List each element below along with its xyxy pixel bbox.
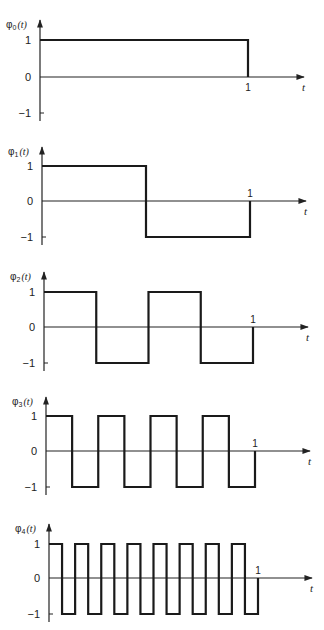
x-axis-label: t (306, 331, 310, 343)
y-axis-label: φ2(t) (10, 271, 31, 283)
y-tick-label-0: 0 (34, 572, 40, 584)
y-tick-label-0: 0 (29, 321, 35, 333)
waveform-phi-4 (49, 544, 258, 614)
x-tick-label-1: 1 (247, 188, 253, 199)
panel-phi-1: φ1(t)10−11t (8, 146, 308, 245)
y-tick-label-neg1: −1 (18, 107, 31, 119)
x-tick-label-1: 1 (252, 438, 258, 449)
walsh-functions-figure: φ0(t)10−11tφ1(t)10−11tφ2(t)10−11tφ3(t)10… (0, 0, 324, 630)
y-tick-label-0: 0 (27, 195, 33, 207)
y-tick-label-neg1: −1 (27, 608, 40, 620)
x-axis-label: t (308, 455, 312, 467)
y-tick-label-1: 1 (27, 160, 33, 172)
y-tick-label-neg1: −1 (24, 481, 37, 493)
y-tick-label-1: 1 (29, 286, 35, 298)
x-tick-label-1: 1 (255, 565, 261, 576)
waveform-phi-0 (40, 40, 248, 77)
panel-phi-3: φ3(t)10−11t (12, 396, 312, 495)
x-tick-label-1: 1 (245, 82, 251, 93)
y-tick-label-neg1: −1 (22, 357, 35, 369)
y-axis-label: φ1(t) (8, 146, 29, 158)
y-tick-label-0: 0 (25, 71, 31, 83)
x-axis-label: t (304, 205, 308, 217)
panel-phi-4: φ4(t)10−11t (15, 523, 314, 622)
y-tick-label-1: 1 (25, 34, 31, 46)
y-tick-label-0: 0 (31, 445, 37, 457)
x-axis-label: t (302, 81, 306, 93)
y-tick-label-neg1: −1 (20, 231, 33, 243)
y-tick-label-1: 1 (34, 538, 40, 550)
y-axis-label: φ0(t) (6, 19, 27, 31)
panel-phi-0: φ0(t)10−11t (6, 19, 306, 121)
y-axis-label: φ3(t) (12, 396, 33, 408)
y-tick-label-1: 1 (31, 410, 37, 422)
x-axis-label: t (310, 582, 314, 594)
y-axis-label: φ4(t) (15, 523, 36, 535)
panel-phi-2: φ2(t)10−11t (10, 271, 310, 371)
x-tick-label-1: 1 (250, 314, 256, 325)
